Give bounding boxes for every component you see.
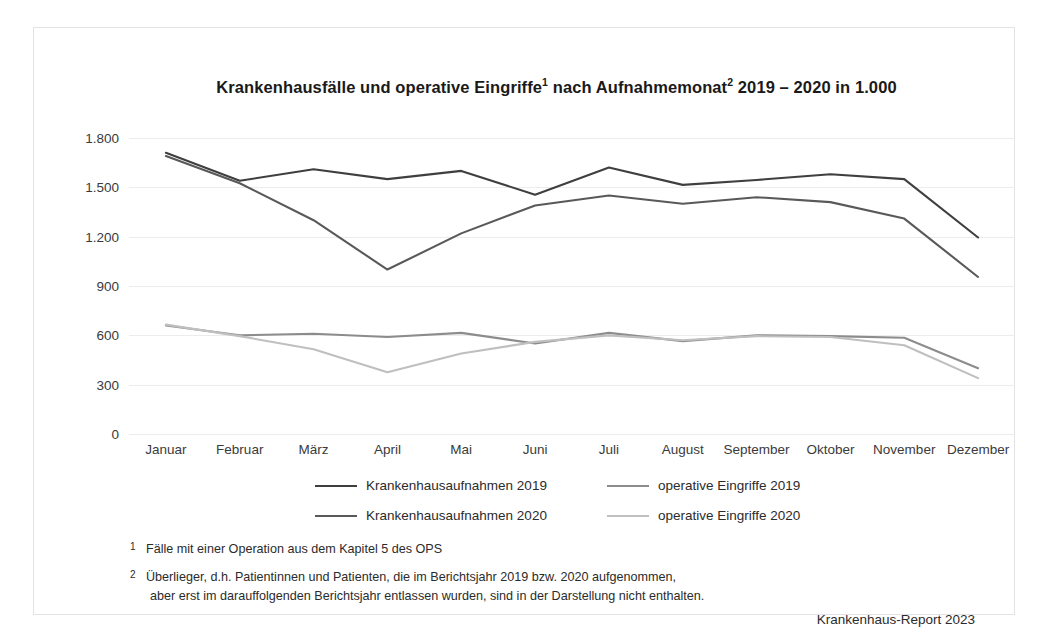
footnote-2: 2 Überlieger, d.h. Patientinnen und Pati… [130, 568, 980, 606]
x-axis-tick-label: August [662, 442, 704, 457]
source-attribution: Krankenhaus-Report 2023 [817, 612, 975, 627]
footnote-2-marker: 2 [130, 567, 136, 582]
legend-swatch-icon [607, 515, 649, 517]
y-axis-tick-label: 1.800 [49, 131, 119, 146]
x-axis-tick-label: Dezember [947, 442, 1009, 457]
legend-item[interactable]: operative Eingriffe 2019 [607, 478, 800, 493]
legend-swatch-icon [315, 515, 357, 517]
chart-title: Krankenhausfälle und operative Eingriffe… [34, 76, 1045, 97]
y-axis-tick-labels: 1.8001.5001.2009006003000 [44, 138, 119, 434]
x-axis-tick-label: Januar [145, 442, 186, 457]
series-line [166, 153, 978, 238]
footnotes: 1 Fälle mit einer Operation aus dem Kapi… [130, 540, 980, 615]
x-axis-tick-label: April [374, 442, 401, 457]
y-axis-tick-label: 300 [49, 377, 119, 392]
plot-area [129, 138, 1015, 434]
legend-label: operative Eingriffe 2019 [658, 478, 800, 493]
legend-label: operative Eingriffe 2020 [658, 508, 800, 523]
y-axis-tick-label: 600 [49, 328, 119, 343]
gridline [129, 434, 1015, 435]
x-axis-tick-label: Mai [450, 442, 472, 457]
x-axis-tick-labels: JanuarFebruarMärzAprilMaiJuniJuliAugustS… [129, 442, 1015, 464]
y-axis-tick-label: 900 [49, 279, 119, 294]
legend-swatch-icon [607, 485, 649, 487]
x-axis-tick-label: November [873, 442, 935, 457]
series-line [166, 325, 978, 378]
legend-swatch-icon [315, 485, 357, 487]
chart-title-mid: nach Aufnahmemonat [548, 78, 727, 96]
y-axis-tick-label: 0 [49, 427, 119, 442]
footnote-1-marker: 1 [130, 539, 136, 554]
chart-title-main: Krankenhausfälle und operative Eingriffe [216, 78, 542, 96]
footnote-1-text: Fälle mit einer Operation aus dem Kapite… [146, 542, 442, 556]
series-line [166, 325, 978, 368]
x-axis-tick-label: September [724, 442, 790, 457]
x-axis-tick-label: Oktober [806, 442, 854, 457]
series-lines [129, 138, 1015, 434]
footnote-2-line-2: aber erst im darauffolgenden Berichtsjah… [146, 587, 980, 606]
x-axis-tick-label: März [299, 442, 329, 457]
figure-frame: Krankenhausfälle und operative Eingriffe… [33, 27, 1015, 615]
legend-item[interactable]: Krankenhausaufnahmen 2019 [315, 478, 547, 493]
footnote-2-line-1: Überlieger, d.h. Patientinnen und Patien… [146, 570, 676, 584]
y-axis-tick-label: 1.200 [49, 229, 119, 244]
footnote-1: 1 Fälle mit einer Operation aus dem Kapi… [130, 540, 980, 559]
chart-legend: Krankenhausaufnahmen 2019Krankenhausaufn… [315, 478, 835, 530]
legend-item[interactable]: operative Eingriffe 2020 [607, 508, 800, 523]
legend-label: Krankenhausaufnahmen 2020 [366, 508, 547, 523]
chart-title-end: 2019 – 2020 in 1.000 [733, 78, 897, 96]
legend-item[interactable]: Krankenhausaufnahmen 2020 [315, 508, 547, 523]
x-axis-tick-label: Februar [216, 442, 263, 457]
y-axis-tick-label: 1.500 [49, 180, 119, 195]
legend-label: Krankenhausaufnahmen 2019 [366, 478, 547, 493]
x-axis-tick-label: Juni [523, 442, 548, 457]
x-axis-tick-label: Juli [599, 442, 619, 457]
